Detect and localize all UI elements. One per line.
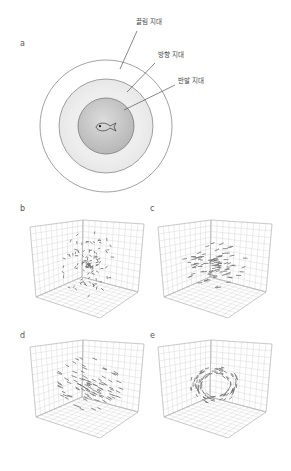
zone-circle-2 [78, 98, 134, 154]
floor [36, 397, 138, 438]
panel-label-b: b [20, 205, 25, 213]
leader-line-0 [120, 31, 137, 69]
agents-torus [190, 367, 237, 403]
panel-a-zones-diagram [40, 31, 175, 192]
plot-3d-b [30, 220, 144, 318]
agents-swarm [62, 232, 114, 297]
zone-label-repulsion: 반발 지대 [178, 78, 204, 85]
plot-3d-d [30, 340, 144, 438]
panel-label-e: e [150, 332, 155, 340]
zone-label-attraction: 끌림 지대 [136, 19, 162, 26]
panels-3d-plots [30, 220, 272, 438]
floor [164, 397, 266, 438]
panel-label-a: a [20, 40, 25, 48]
plot-3d-c [158, 220, 272, 318]
floor [36, 277, 138, 318]
back-right-wall [82, 340, 144, 412]
zone-label-orientation: 방향 지대 [158, 52, 184, 59]
back-right-wall [210, 340, 272, 412]
floor [164, 277, 266, 318]
figure-canvas [0, 0, 291, 471]
figure: a 끌림 지대 방향 지대 반발 지대 b c d e [0, 0, 291, 471]
panel-label-c: c [150, 205, 154, 213]
panel-label-d: d [20, 332, 25, 340]
plot-3d-e [158, 340, 272, 438]
back-left-wall [30, 220, 83, 297]
